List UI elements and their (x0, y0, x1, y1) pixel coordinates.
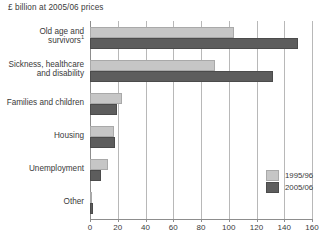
legend-label: 2005/06 (285, 183, 313, 192)
category-label: Old age andsurvivors1 (39, 27, 84, 46)
bar-group (90, 192, 312, 214)
category-label-line: Sickness, healthcare (8, 60, 84, 70)
axis-tick (284, 219, 285, 222)
axis-tick-label: 80 (197, 223, 206, 232)
bar (90, 203, 93, 214)
axis-tick (312, 219, 313, 222)
category-label: Other (64, 197, 84, 207)
axis-tick-label: 100 (222, 223, 235, 232)
bar (90, 27, 234, 38)
legend-swatch (266, 170, 279, 181)
axis-tick (173, 219, 174, 222)
bar-group (90, 27, 312, 49)
axis-tick-label: 120 (250, 223, 263, 232)
axis-tick-label: 160 (305, 223, 318, 232)
bar (90, 170, 101, 181)
bar-group (90, 126, 312, 148)
axis-tick (146, 219, 147, 222)
category-label-line: survivors1 (39, 36, 84, 46)
bar (90, 71, 273, 82)
x-axis (90, 219, 312, 220)
bar (90, 137, 115, 148)
category-label-line: Families and children (7, 98, 84, 108)
axis-tick (257, 219, 258, 222)
gridline-80 (201, 21, 202, 219)
bar (90, 38, 298, 49)
gridline-20 (118, 21, 119, 219)
bar (90, 60, 215, 71)
gridline-100 (229, 21, 230, 219)
legend-label: 1995/96 (285, 171, 313, 180)
axis-tick-label: 0 (88, 223, 92, 232)
axis-tick (229, 219, 230, 222)
footnote-marker: 1 (81, 35, 84, 41)
category-label-line: Housing (54, 131, 84, 141)
bar-chart: £ billion at 2005/06 prices 1995/962005/… (0, 0, 330, 246)
category-label-line: Unemployment (29, 164, 84, 174)
legend-swatch (266, 182, 279, 193)
axis-tick-label: 60 (169, 223, 178, 232)
axis-tick (201, 219, 202, 222)
axis-tick-label: 40 (141, 223, 150, 232)
category-label-line: Other (64, 197, 84, 207)
category-label: Sickness, healthcareand disability (8, 60, 84, 79)
gridline-40 (146, 21, 147, 219)
bar (90, 93, 122, 104)
axis-tick (90, 219, 91, 222)
gridline-60 (173, 21, 174, 219)
category-label-line: and disability (8, 69, 84, 79)
bar (90, 126, 114, 137)
chart-title: £ billion at 2005/06 prices (8, 3, 104, 12)
bar-group (90, 60, 312, 82)
category-label: Housing (54, 131, 84, 141)
bar (90, 192, 92, 203)
bar (90, 104, 117, 115)
axis-tick (118, 219, 119, 222)
axis-tick-label: 140 (278, 223, 291, 232)
category-label: Families and children (7, 98, 84, 108)
axis-baseline (90, 21, 91, 219)
axis-tick-label: 20 (113, 223, 122, 232)
gridline-120 (257, 21, 258, 219)
category-label: Unemployment (29, 164, 84, 174)
bar (90, 159, 108, 170)
bar-group (90, 93, 312, 115)
